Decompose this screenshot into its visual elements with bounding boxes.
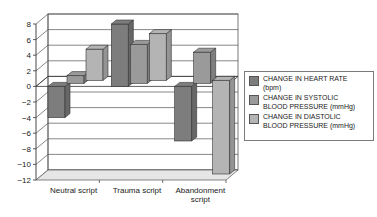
x-axis-labels: Neutral scriptTrauma scriptAbandonmentsc… bbox=[50, 180, 226, 204]
legend-item-diastolic: CHANGE IN DIASTOLICBLOOD PRESSURE (mmHg) bbox=[249, 113, 369, 130]
y-axis: 86420−2−4−6−8−10−12 bbox=[17, 14, 48, 185]
legend-label-diastolic: CHANGE IN DIASTOLICBLOOD PRESSURE (mmHg) bbox=[263, 113, 355, 130]
bar-side bbox=[211, 48, 216, 83]
gridline-side bbox=[36, 92, 48, 102]
y-tick-label: −12 bbox=[17, 176, 31, 185]
y-tick-label: −4 bbox=[22, 114, 32, 123]
legend-label-heart-rate: CHANGE IN HEART RATE(bpm) bbox=[263, 75, 347, 92]
bar bbox=[130, 40, 152, 83]
x-tick-label: script bbox=[191, 195, 211, 204]
bar bbox=[194, 48, 216, 83]
gridline-side bbox=[36, 45, 48, 55]
bar bbox=[111, 20, 133, 86]
bar bbox=[48, 82, 70, 117]
bar-side bbox=[166, 30, 171, 81]
gridline-side bbox=[36, 61, 48, 71]
gridline-side bbox=[36, 108, 48, 118]
y-tick-label: −2 bbox=[22, 98, 32, 107]
bar-front bbox=[86, 49, 103, 80]
floor bbox=[36, 170, 238, 180]
x-tick-label: Trauma script bbox=[113, 186, 162, 195]
bar bbox=[213, 76, 235, 174]
bar bbox=[175, 82, 197, 141]
bar bbox=[86, 45, 108, 80]
bar-front bbox=[130, 44, 147, 83]
legend-swatch-diastolic bbox=[249, 114, 259, 124]
x-tick-label: Neutral script bbox=[50, 186, 98, 195]
gridline-side bbox=[36, 154, 48, 164]
bar-front bbox=[111, 24, 128, 86]
gridline-side bbox=[36, 14, 48, 24]
legend-item-heart-rate: CHANGE IN HEART RATE(bpm) bbox=[249, 75, 369, 92]
y-tick-label: −8 bbox=[22, 145, 32, 154]
bar-front bbox=[67, 76, 84, 84]
x-tick-label: Abandonment bbox=[175, 186, 226, 195]
y-tick-label: 8 bbox=[27, 20, 32, 29]
legend-swatch-heart-rate bbox=[249, 76, 259, 86]
bar-front bbox=[213, 80, 230, 174]
bar-side bbox=[230, 76, 235, 174]
y-tick-label: −10 bbox=[17, 160, 31, 169]
y-tick-label: −6 bbox=[22, 129, 32, 138]
legend-item-systolic: CHANGE IN SYSTOLICBLOOD PRESSURE (mmHg) bbox=[249, 94, 369, 111]
legend-label-systolic: CHANGE IN SYSTOLICBLOOD PRESSURE (mmHg) bbox=[263, 94, 355, 111]
gridline-side bbox=[36, 123, 48, 133]
bar-side bbox=[192, 82, 197, 141]
legend: CHANGE IN HEART RATE(bpm) CHANGE IN SYST… bbox=[244, 71, 374, 141]
bar bbox=[149, 30, 171, 81]
bar-side bbox=[65, 82, 70, 117]
y-tick-label: 2 bbox=[27, 67, 32, 76]
gridline-side bbox=[36, 139, 48, 149]
legend-swatch-systolic bbox=[249, 95, 259, 105]
y-tick-label: 0 bbox=[27, 82, 32, 91]
y-tick-label: 4 bbox=[27, 51, 32, 60]
bar-front bbox=[48, 86, 65, 117]
y-tick-label: 6 bbox=[27, 36, 32, 45]
bar-front bbox=[149, 34, 166, 81]
bar-front bbox=[175, 86, 192, 141]
bar-front bbox=[194, 52, 211, 83]
bar bbox=[67, 72, 89, 84]
gridline-side bbox=[36, 30, 48, 40]
bar-side bbox=[103, 45, 108, 80]
